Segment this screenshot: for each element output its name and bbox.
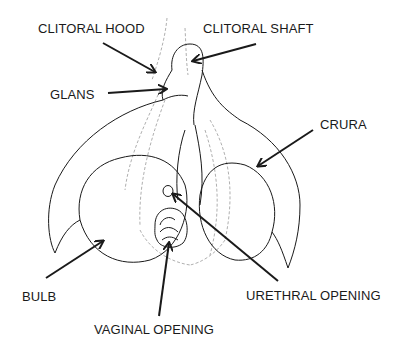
label-clitoral-hood: CLITORAL HOOD	[38, 21, 145, 36]
arrow-urethral-opening	[173, 194, 278, 281]
arrow-crura	[258, 130, 313, 166]
label-urethral-opening: URETHRAL OPENING	[246, 288, 381, 303]
label-arrows	[46, 43, 313, 316]
label-clitoral-shaft: CLITORAL SHAFT	[203, 21, 313, 36]
anatomy-outline	[49, 44, 300, 268]
arrow-vaginal-opening	[159, 243, 169, 316]
label-glans: GLANS	[50, 87, 95, 102]
label-bulb: BULB	[22, 289, 56, 304]
arrow-clitoral-hood	[103, 43, 155, 72]
anatomy-diagram: CLITORAL HOOD CLITORAL SHAFT GLANS CRURA…	[0, 0, 416, 359]
anatomy-drawing	[0, 0, 416, 359]
arrow-glans	[108, 89, 166, 93]
label-vaginal-opening: VAGINAL OPENING	[94, 322, 214, 337]
arrow-bulb	[46, 241, 103, 278]
label-crura: CRURA	[320, 117, 367, 132]
